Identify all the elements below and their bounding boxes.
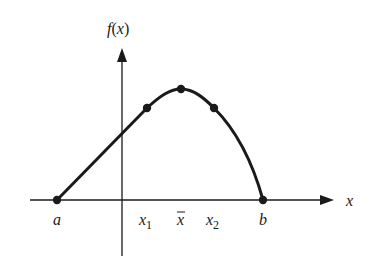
y-axis (117, 48, 127, 256)
point-xbar (177, 85, 185, 93)
y-axis-label: f(x) (107, 20, 129, 38)
x-axis-label: x (345, 192, 353, 209)
function-curve (57, 89, 263, 200)
label-x2: x2 (205, 211, 219, 232)
label-a: a (53, 211, 61, 228)
point-x2 (210, 104, 218, 112)
label-x1: x1 (138, 211, 152, 232)
y-axis-arrow-icon (117, 48, 127, 62)
point-x1 (143, 104, 151, 112)
function-diagram: f(x) x a x1 x x2 b (0, 0, 371, 261)
x-axis (30, 195, 334, 205)
label-xbar: x (176, 211, 184, 228)
diagram-canvas: f(x) x a x1 x x2 b (0, 0, 371, 261)
label-b: b (259, 211, 267, 228)
point-b (259, 196, 267, 204)
x-axis-arrow-icon (320, 195, 334, 205)
point-a (53, 196, 61, 204)
